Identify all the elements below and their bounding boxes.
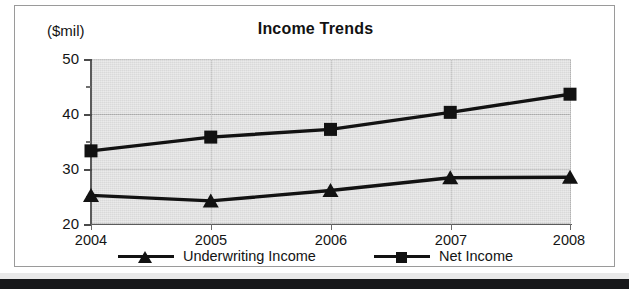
y-axis-unit-label: ($mil) xyxy=(47,22,85,39)
legend-triangle-marker-icon xyxy=(118,248,174,264)
x-tick-label-2004: 2004 xyxy=(56,232,126,248)
legend-entry-net-income[interactable]: Net Income xyxy=(374,248,513,264)
y-tick-label-40: 40 xyxy=(39,105,79,122)
scan-edge-dark-band xyxy=(0,279,629,289)
y-tick-40 xyxy=(84,114,92,116)
vgridline-2005 xyxy=(211,59,212,224)
chart-figure-frame: Income Trends ($mil) 50 40 30 20 2004 20… xyxy=(14,5,615,267)
y-tick-45 xyxy=(86,86,91,88)
chart-legend: Underwriting Income Net Income xyxy=(15,248,616,264)
y-tick-label-20: 20 xyxy=(39,215,79,232)
x-tick-label-2008: 2008 xyxy=(534,232,604,248)
x-tick-label-2006: 2006 xyxy=(296,232,366,248)
x-tick-label-2005: 2005 xyxy=(176,232,246,248)
y-tick-35 xyxy=(86,141,91,143)
y-tick-25 xyxy=(86,196,91,198)
y-tick-label-50: 50 xyxy=(39,50,79,67)
legend-entry-underwriting-income[interactable]: Underwriting Income xyxy=(118,248,316,264)
x-tick-2004 xyxy=(91,224,92,230)
y-tick-50 xyxy=(84,59,92,61)
vgridline-2007 xyxy=(451,59,452,224)
chart-title: Income Trends xyxy=(15,20,616,38)
legend-square-marker-icon xyxy=(374,248,430,264)
legend-label-net-income: Net Income xyxy=(439,248,513,264)
x-tick-2008 xyxy=(570,224,571,230)
x-tick-2006 xyxy=(331,224,332,230)
legend-label-underwriting-income: Underwriting Income xyxy=(183,248,316,264)
x-tick-2005 xyxy=(211,224,212,230)
y-tick-label-30: 30 xyxy=(39,160,79,177)
x-tick-2007 xyxy=(451,224,452,230)
plot-area xyxy=(91,59,571,224)
x-tick-label-2007: 2007 xyxy=(416,232,486,248)
y-tick-30 xyxy=(84,169,92,171)
vgridline-2006 xyxy=(331,59,332,224)
vgridline-2008 xyxy=(570,59,571,224)
